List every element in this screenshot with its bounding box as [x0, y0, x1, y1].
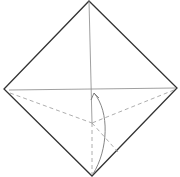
origami-fold-diagram [0, 0, 180, 177]
